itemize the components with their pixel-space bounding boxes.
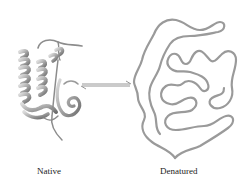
native-label: Native <box>37 166 61 176</box>
native-protein-ribbon <box>20 40 82 140</box>
folding-diagram: Native Denatured <box>0 0 251 182</box>
denatured-label: Denatured <box>160 166 198 176</box>
denatured-protein-coil <box>134 20 236 158</box>
equilibrium-arrow-icon <box>81 81 131 89</box>
